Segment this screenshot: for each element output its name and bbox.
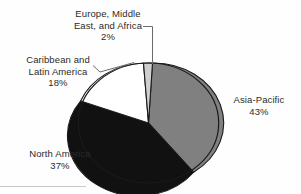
slice-value-emea: 2% — [54, 31, 162, 43]
slice-value-caribbean: 18% — [6, 77, 110, 89]
slice-label-caribbean-line2: Latin America — [6, 66, 110, 78]
slice-label-asia-pacific-line1: Asia-Pacific — [234, 94, 285, 105]
slice-label-emea: Europe, Middle East, and Africa 2% — [54, 8, 162, 43]
slice-value-north-america: 37% — [8, 160, 112, 172]
slice-label-caribbean-line1: Caribbean and — [6, 54, 110, 66]
page-bottom-rule — [0, 186, 86, 187]
pie-chart-figure: Europe, Middle East, and Africa 2% Carib… — [0, 0, 301, 194]
slice-value-asia-pacific: 43% — [222, 106, 296, 118]
slice-label-caribbean: Caribbean and Latin America 18% — [6, 54, 110, 89]
slice-label-asia-pacific: Asia-Pacific 43% — [222, 94, 296, 117]
slice-label-emea-line1: Europe, Middle — [54, 8, 162, 20]
slice-label-emea-line2: East, and Africa — [54, 20, 162, 32]
slice-label-north-america: North America 37% — [8, 148, 112, 171]
slice-label-north-america-line1: North America — [29, 148, 91, 159]
